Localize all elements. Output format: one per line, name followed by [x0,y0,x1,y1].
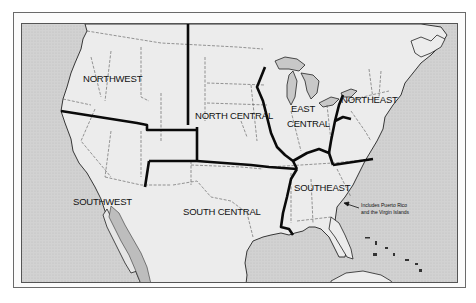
label-south-central: SOUTH CENTRAL [183,206,261,217]
label-northeast: NORTHEAST [341,94,398,105]
annotation-line-1: Includes Puerto Rico [361,202,407,208]
label-southeast: SOUTHEAST [294,182,351,193]
label-northwest: NORTHWEST [83,73,143,84]
label-central: CENTRAL [287,118,330,129]
label-southwest: SOUTHWEST [73,196,132,207]
us-regions-map: NORTHWEST NORTH CENTRAL EAST CENTRAL NOR… [21,23,458,283]
annotation-line-2: and the Virgin Islands [361,209,409,215]
label-north-central: NORTH CENTRAL [195,110,273,121]
label-east: EAST [291,103,315,114]
